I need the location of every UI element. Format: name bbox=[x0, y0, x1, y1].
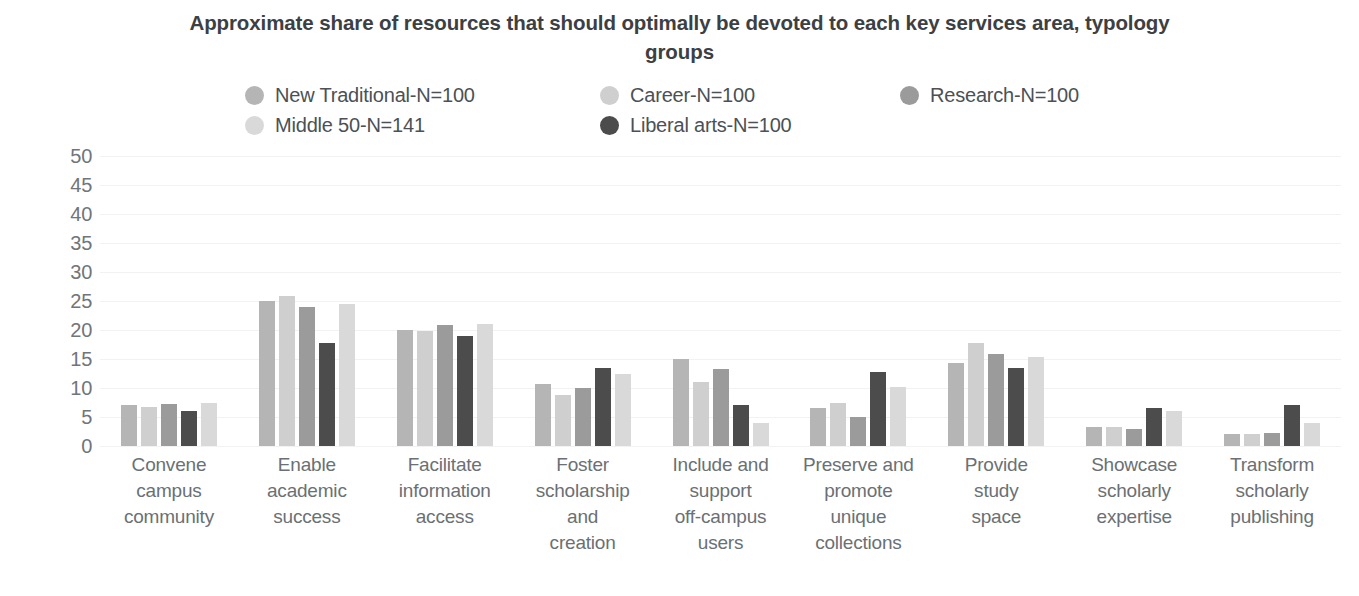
x-axis-label-line: success bbox=[240, 504, 374, 530]
bar[interactable] bbox=[948, 363, 964, 446]
bar[interactable] bbox=[713, 369, 729, 446]
legend-label: Career-N=100 bbox=[630, 84, 755, 107]
bar-group bbox=[238, 156, 376, 446]
x-axis-label-line: academic bbox=[240, 478, 374, 504]
bar[interactable] bbox=[259, 301, 275, 446]
legend-item[interactable]: Middle 50-N=141 bbox=[245, 110, 600, 140]
legend-item[interactable]: Research-N=100 bbox=[900, 80, 1200, 110]
bar-set bbox=[1086, 156, 1182, 446]
bar[interactable] bbox=[141, 407, 157, 446]
bar[interactable] bbox=[673, 359, 689, 446]
legend-label: Research-N=100 bbox=[930, 84, 1079, 107]
x-axis-label: Convenecampuscommunity bbox=[100, 452, 238, 556]
bar[interactable] bbox=[988, 354, 1004, 446]
y-axis-tick: 0 bbox=[81, 436, 92, 456]
x-axis-label-line: publishing bbox=[1205, 504, 1339, 530]
chart-legend: New Traditional-N=100Career-N=100Researc… bbox=[0, 80, 1359, 140]
bar[interactable] bbox=[397, 330, 413, 446]
x-axis-label-line: promote bbox=[791, 478, 925, 504]
bar-group bbox=[376, 156, 514, 446]
legend-item[interactable]: Career-N=100 bbox=[600, 80, 900, 110]
bar[interactable] bbox=[1008, 368, 1024, 446]
y-axis-tick: 15 bbox=[70, 349, 92, 369]
bar[interactable] bbox=[417, 331, 433, 446]
x-axis-label-line: study bbox=[929, 478, 1063, 504]
bar[interactable] bbox=[733, 405, 749, 446]
plot-canvas bbox=[100, 156, 1341, 446]
y-axis-tick: 35 bbox=[70, 233, 92, 253]
bar[interactable] bbox=[181, 411, 197, 446]
x-axis-label-line: campus bbox=[102, 478, 236, 504]
legend-item[interactable]: Liberal arts-N=100 bbox=[600, 110, 900, 140]
x-axis-label-line: access bbox=[378, 504, 512, 530]
bar[interactable] bbox=[201, 403, 217, 447]
legend-swatch-icon bbox=[600, 86, 619, 105]
bar[interactable] bbox=[753, 423, 769, 446]
legend-swatch-icon bbox=[245, 86, 264, 105]
bar[interactable] bbox=[1106, 427, 1122, 446]
bar-group bbox=[927, 156, 1065, 446]
bar[interactable] bbox=[890, 387, 906, 446]
bar[interactable] bbox=[830, 403, 846, 447]
bar[interactable] bbox=[477, 324, 493, 446]
bar[interactable] bbox=[1304, 423, 1320, 446]
bar[interactable] bbox=[437, 325, 453, 446]
x-axis-label-line: Transform bbox=[1205, 452, 1339, 478]
bar[interactable] bbox=[1028, 357, 1044, 446]
bar[interactable] bbox=[279, 296, 295, 446]
bar[interactable] bbox=[1166, 411, 1182, 446]
bar-groups bbox=[100, 156, 1341, 446]
x-axis-label: Preserve andpromoteuniquecollections bbox=[789, 452, 927, 556]
legend-item[interactable]: New Traditional-N=100 bbox=[245, 80, 600, 110]
bar[interactable] bbox=[555, 395, 571, 446]
bar[interactable] bbox=[693, 382, 709, 446]
x-axis-label: Providestudyspace bbox=[927, 452, 1065, 556]
bar[interactable] bbox=[595, 368, 611, 446]
bar[interactable] bbox=[1244, 434, 1260, 446]
legend-label: Liberal arts-N=100 bbox=[630, 114, 792, 137]
x-axis-labels: ConvenecampuscommunityEnableacademicsucc… bbox=[100, 452, 1341, 556]
legend-swatch-icon bbox=[900, 86, 919, 105]
bar[interactable] bbox=[615, 374, 631, 447]
bar-set bbox=[948, 156, 1044, 446]
y-axis-tick: 10 bbox=[70, 378, 92, 398]
bar[interactable] bbox=[121, 405, 137, 446]
x-axis-label: Include andsupportoff-campususers bbox=[652, 452, 790, 556]
bar[interactable] bbox=[339, 304, 355, 446]
x-axis-label: Facilitateinformationaccess bbox=[376, 452, 514, 556]
bar[interactable] bbox=[870, 372, 886, 446]
y-axis-tick: 50 bbox=[70, 146, 92, 166]
bar[interactable] bbox=[161, 404, 177, 446]
x-axis-label-line: users bbox=[654, 530, 788, 556]
bar[interactable] bbox=[1086, 427, 1102, 446]
bar[interactable] bbox=[575, 388, 591, 446]
y-axis-tick: 5 bbox=[81, 407, 92, 427]
bar[interactable] bbox=[535, 384, 551, 446]
y-axis-tick: 45 bbox=[70, 175, 92, 195]
bar[interactable] bbox=[1264, 433, 1280, 446]
x-axis-label-line: Facilitate bbox=[378, 452, 512, 478]
bar[interactable] bbox=[319, 343, 335, 446]
bar[interactable] bbox=[1224, 434, 1240, 446]
x-axis-label-line: space bbox=[929, 504, 1063, 530]
x-axis-label-line: Provide bbox=[929, 452, 1063, 478]
x-axis-label-line: scholarly bbox=[1205, 478, 1339, 504]
x-axis-label-line: Showcase bbox=[1067, 452, 1201, 478]
bar[interactable] bbox=[850, 417, 866, 446]
x-axis-label-line: scholarship bbox=[516, 478, 650, 504]
bar[interactable] bbox=[1284, 405, 1300, 446]
bar[interactable] bbox=[810, 408, 826, 446]
bar[interactable] bbox=[457, 336, 473, 446]
y-axis: 50454035302520151050 bbox=[48, 156, 92, 446]
x-axis-label: Transformscholarlypublishing bbox=[1203, 452, 1341, 556]
bar[interactable] bbox=[299, 307, 315, 446]
legend-label: New Traditional-N=100 bbox=[275, 84, 475, 107]
bar[interactable] bbox=[1126, 429, 1142, 446]
x-axis-label-line: collections bbox=[791, 530, 925, 556]
x-axis-label-line: Preserve and bbox=[791, 452, 925, 478]
bar[interactable] bbox=[1146, 408, 1162, 446]
plot-area: 50454035302520151050 Convenecampuscommun… bbox=[0, 156, 1359, 466]
y-axis-tick: 30 bbox=[70, 262, 92, 282]
y-axis-tick: 20 bbox=[70, 320, 92, 340]
bar[interactable] bbox=[968, 343, 984, 446]
